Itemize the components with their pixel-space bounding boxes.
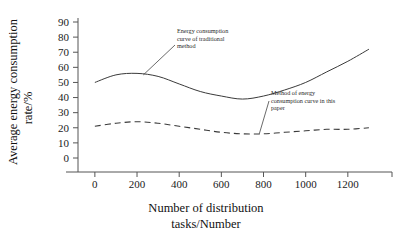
y-axis-title-line2: rate/% (21, 92, 35, 125)
chart-container: 0102030405060708090 02004006008001000120… (0, 0, 412, 237)
energy-consumption-line-chart: 0102030405060708090 02004006008001000120… (0, 0, 412, 237)
annotation-label-this-paper: paper (271, 104, 285, 111)
x-axis-title-line1: Number of distribution (148, 201, 264, 215)
annotation-label-traditional: curve of traditional (177, 35, 225, 42)
y-tick-label: 90 (58, 16, 70, 28)
annotation-label-this-paper: Method of energy (271, 89, 316, 96)
x-tick-label: 1000 (295, 178, 318, 190)
y-tick-label: 20 (58, 122, 70, 134)
y-tick-label: 70 (58, 46, 70, 58)
y-tick-label: 80 (58, 31, 70, 43)
x-tick-label: 600 (213, 178, 230, 190)
annotation-label-traditional: Energy consumption (177, 27, 228, 34)
x-tick-label: 0 (92, 178, 98, 190)
x-axis-title-line2: tasks/Number (171, 217, 241, 231)
y-tick-label: 60 (58, 61, 70, 73)
x-tick-label: 800 (255, 178, 272, 190)
y-tick-label: 0 (64, 152, 70, 164)
x-tick-label: 1200 (337, 178, 360, 190)
y-tick-label: 30 (58, 106, 70, 118)
annotation-label-traditional: method (177, 42, 196, 49)
x-tick-label: 200 (129, 178, 146, 190)
y-axis-title-line1: Average energy consumption (6, 18, 20, 165)
y-tick-label: 40 (58, 91, 70, 103)
annotation-label-this-paper: consumption curve in this (271, 97, 336, 104)
x-tick-label: 400 (171, 178, 188, 190)
y-tick-label: 10 (58, 137, 70, 149)
y-tick-label: 50 (58, 76, 70, 88)
